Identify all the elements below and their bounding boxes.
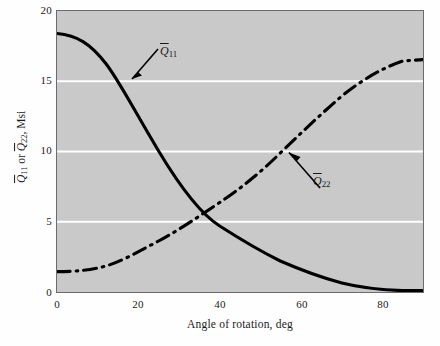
curve-label-q11: Q11: [160, 44, 177, 59]
q11-subscript: 11: [169, 49, 178, 59]
x-tick-20: 20: [123, 299, 153, 310]
y-axis-q11-symbol: Q: [15, 175, 27, 183]
q11-symbol: Q: [160, 44, 169, 58]
plot-area: [56, 10, 424, 293]
y-tick-0: 0: [22, 287, 52, 298]
q22-symbol: Q: [313, 174, 322, 188]
q22-subscript: 22: [322, 179, 331, 189]
y-axis-connector: or: [15, 151, 27, 166]
x-tick-0: 0: [42, 299, 72, 310]
y-axis-q22-symbol: Q: [15, 143, 27, 151]
y-axis-q22-subscript: 22: [19, 134, 29, 143]
curve-label-q22: Q22: [313, 174, 331, 189]
gridlines: [57, 81, 423, 222]
figure-container: 20 15 10 5 0 0 20 40 60 80 Angle of rota…: [0, 0, 440, 346]
x-tick-40: 40: [205, 299, 235, 310]
x-axis-title: Angle of rotation, deg: [56, 318, 424, 330]
series-q11-curve: [57, 34, 423, 291]
y-axis-q11-subscript: 11: [19, 167, 29, 175]
x-tick-80: 80: [368, 299, 398, 310]
y-axis-title: Q11 or Q22, Msi: [15, 57, 29, 237]
x-tick-60: 60: [287, 299, 317, 310]
y-axis-units: , Msi: [15, 111, 27, 135]
annotation-arrow-q11: [132, 49, 158, 79]
y-tick-20: 20: [22, 5, 52, 16]
plot-canvas: [57, 11, 423, 292]
